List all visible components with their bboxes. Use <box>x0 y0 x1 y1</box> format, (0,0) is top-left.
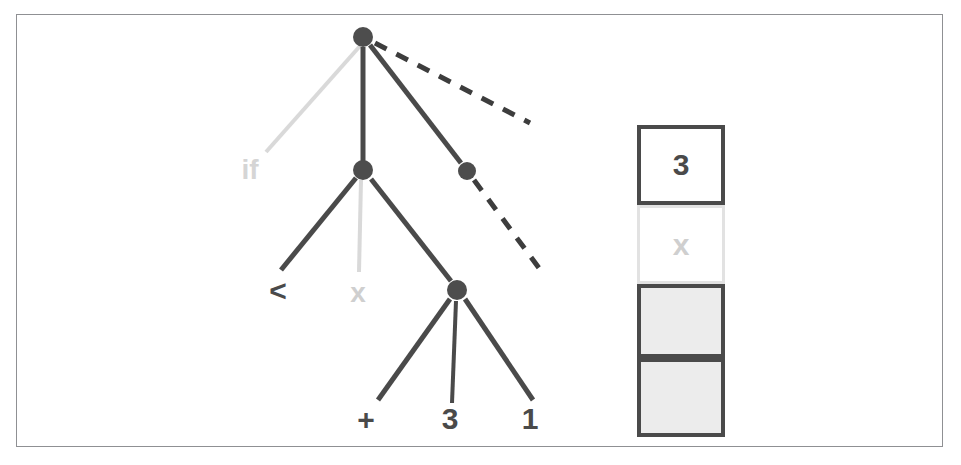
tree-edge-lower-three <box>452 301 456 403</box>
tree-edge-lower-plus <box>378 299 450 400</box>
stack-cell-empty1 <box>637 284 725 358</box>
tree-edge-right-dashed <box>474 180 542 272</box>
stack-cell-3: 3 <box>637 125 725 205</box>
tree-edge-root-if <box>266 46 360 152</box>
tree-edge-root-right <box>370 45 461 163</box>
tree-edge-layer <box>266 43 542 403</box>
tree-node-root <box>353 27 373 47</box>
syntax-tree-graphic <box>0 0 961 465</box>
tree-edge-mid-lt <box>281 178 356 270</box>
stack-cell-x: x <box>637 205 725 284</box>
tree-label-if-label: if <box>241 156 258 184</box>
tree-node-layer <box>353 27 476 300</box>
tree-edge-lower-one <box>465 299 533 400</box>
tree-edge-mid-x <box>359 180 361 272</box>
tree-label-one-label: 1 <box>522 404 539 434</box>
stack-cell-empty2 <box>637 358 725 437</box>
tree-node-right <box>458 162 476 180</box>
tree-node-lower <box>447 280 467 300</box>
tree-label-plus-label: + <box>357 405 375 435</box>
tree-label-three-label: 3 <box>442 404 459 434</box>
tree-node-mid <box>353 160 373 180</box>
value-stack: 3x <box>637 125 725 437</box>
tree-label-x-label: x <box>350 279 366 307</box>
tree-edge-mid-lower <box>371 179 451 281</box>
tree-label-lt-label: < <box>269 276 287 306</box>
screenshot-root: if<x+31 3x <box>0 0 961 465</box>
